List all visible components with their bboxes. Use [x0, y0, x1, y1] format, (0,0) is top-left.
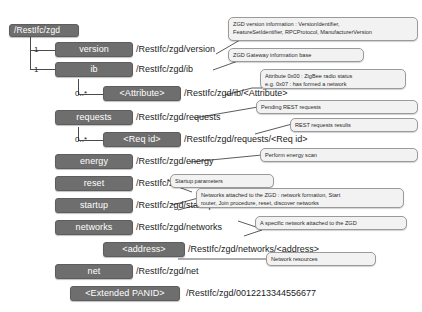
callout-version-line-1: ZGD version information : VersionIdentif…: [233, 21, 413, 29]
uri-net: /RestIfc/zgd/net: [136, 267, 199, 276]
callout-attribute-line-1: Attribute 0x00 : ZigBee radio status: [265, 73, 401, 81]
callout-startup-line-2: router, Join procedure, reset, discover …: [201, 200, 399, 208]
uri-attribute: /RestIfc/zgd/ib/<Attribute>: [184, 89, 288, 98]
leader-reqid: [255, 124, 292, 134]
callout-requests-line-1: Pending REST requests: [261, 104, 413, 112]
callout-net-line-1: Network resources: [271, 256, 371, 264]
node-extended-panid-label: <Extended PANID>: [85, 289, 164, 298]
multiplicity-ib: 1: [34, 66, 38, 74]
uri-ib: /RestIfc/zgd/ib: [136, 65, 193, 74]
callout-attribute-line-2: e.g. 0x07 : has formed a network: [265, 81, 401, 89]
node-address[interactable]: <address>: [103, 242, 185, 257]
callout-reset-info: Startup parameters: [170, 174, 274, 188]
node-root[interactable]: /RestIfc/zgd: [9, 24, 79, 37]
callout-attribute-info: Attribute 0x00 : ZigBee radio status e.g…: [260, 69, 406, 89]
node-extended-panid[interactable]: <Extended PANID>: [70, 286, 180, 301]
callout-energy-info: Perform energy scan: [260, 148, 418, 162]
multiplicity-attribute: 0..*: [75, 90, 87, 98]
node-energy-label: energy: [80, 157, 108, 166]
callout-requests-info: Pending REST requests: [256, 100, 418, 114]
uri-networks: /RestIfc/zgd/networks: [136, 223, 222, 232]
node-root-label: /RestIfc/zgd: [14, 26, 60, 35]
callout-networks-line-1: A specific network attached to the ZGD: [260, 220, 402, 228]
node-networks-label: networks: [76, 223, 113, 232]
callout-ib-info: ZGD Gateway information base: [228, 48, 364, 62]
callout-version-line-2: FeatureSetIdentifier, RPCProtocol, Manuf…: [233, 29, 413, 37]
callout-net-info: Network resources: [266, 252, 376, 266]
multiplicity-version: 1: [34, 46, 38, 54]
uri-reqid: /RestIfc/zgd/requests/<Req id>: [184, 135, 308, 144]
uri-version: /RestIfc/zgd/version: [136, 45, 215, 54]
node-energy[interactable]: energy: [55, 154, 133, 169]
callout-startup-info: Networks attached to the ZGD : network f…: [196, 188, 404, 208]
uri-extended-panid: /RestIfc/zgd/0012213344556677: [186, 289, 316, 298]
node-attribute-label: <Attribute>: [119, 89, 164, 98]
callout-startup-line-1: Networks attached to the ZGD : network f…: [201, 192, 399, 200]
multiplicity-reqid: 0..*: [75, 136, 87, 144]
node-net[interactable]: net: [55, 264, 133, 279]
node-version[interactable]: version: [55, 42, 133, 57]
node-ib[interactable]: ib: [55, 62, 133, 77]
resource-tree-diagram: /RestIfc/zgd version ib <Attribute> requ…: [0, 0, 422, 312]
callout-networks-info: A specific network attached to the ZGD: [255, 216, 407, 230]
uri-requests: /RestIfc/zgd/requests: [136, 113, 221, 122]
node-address-label: <address>: [122, 245, 165, 254]
node-requests[interactable]: requests: [55, 110, 133, 125]
callout-energy-line-1: Perform energy scan: [265, 152, 413, 160]
node-requests-label: requests: [76, 113, 111, 122]
node-net-label: net: [88, 267, 101, 276]
node-version-label: version: [79, 45, 109, 54]
node-reqid[interactable]: <Req id>: [103, 132, 181, 147]
node-reset[interactable]: reset: [55, 176, 133, 191]
node-attribute[interactable]: <Attribute>: [103, 86, 181, 101]
callout-reqid-line-1: REST requests results: [295, 122, 413, 130]
leader-networks-b: [244, 230, 262, 236]
leader-networks-a: [238, 221, 256, 227]
callout-reqid-info: REST requests results: [290, 118, 418, 132]
callout-ib-line-1: ZGD Gateway information base: [233, 52, 359, 60]
node-reqid-label: <Req id>: [123, 135, 160, 144]
node-startup-label: startup: [80, 201, 108, 210]
node-ib-label: ib: [90, 65, 97, 74]
node-startup[interactable]: startup: [55, 198, 133, 213]
callout-version-info: ZGD version information : VersionIdentif…: [228, 17, 418, 41]
uri-energy: /RestIfc/zgd/energy: [136, 157, 214, 166]
callout-reset-line-1: Startup parameters: [175, 178, 269, 186]
node-networks[interactable]: networks: [55, 220, 133, 235]
node-reset-label: reset: [84, 179, 105, 188]
leader-ib: [213, 61, 246, 70]
